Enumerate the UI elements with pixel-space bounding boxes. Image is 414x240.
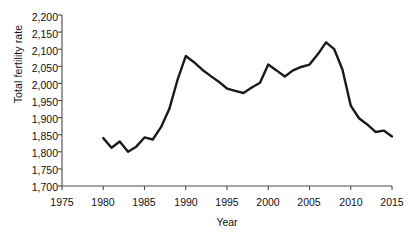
axis-lines xyxy=(62,15,392,186)
fertility-rate-series-line xyxy=(103,42,392,151)
plot-area xyxy=(0,0,414,240)
x-axis-ticks xyxy=(62,186,392,190)
fertility-rate-line-chart: Total fertility rate 1,700 1,750 1,800 1… xyxy=(0,0,414,240)
y-axis-ticks xyxy=(58,15,62,186)
x-axis-title: Year xyxy=(62,216,392,228)
